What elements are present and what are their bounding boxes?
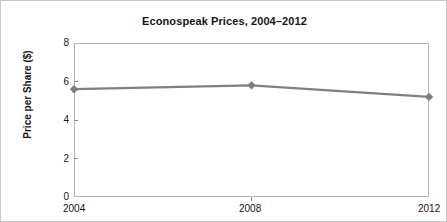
y-tick-mark-4 — [74, 120, 78, 121]
x-tick-mark-2008 — [251, 197, 252, 201]
y-tick-mark-6 — [74, 81, 78, 82]
x-tick-label-2004: 2004 — [63, 203, 85, 214]
y-tick-label-8: 8 — [53, 38, 69, 48]
y-axis-title: Price per Share ($) — [22, 25, 33, 165]
x-tick-label-2008: 2008 — [239, 203, 261, 214]
y-tick-label-0: 0 — [53, 192, 69, 202]
x-tick-label-2012: 2012 — [418, 203, 440, 214]
y-tick-label-6: 6 — [53, 77, 69, 87]
y-tick-mark-2 — [74, 158, 78, 159]
y-tick-label-2: 2 — [53, 154, 69, 164]
y-tick-label-4: 4 — [53, 115, 69, 125]
plot-area — [74, 43, 429, 197]
chart-figure: Econospeak Prices, 2004–2012 Price per S… — [0, 0, 447, 222]
y-axis-tick-labels: 8 6 4 2 0 — [51, 1, 69, 222]
